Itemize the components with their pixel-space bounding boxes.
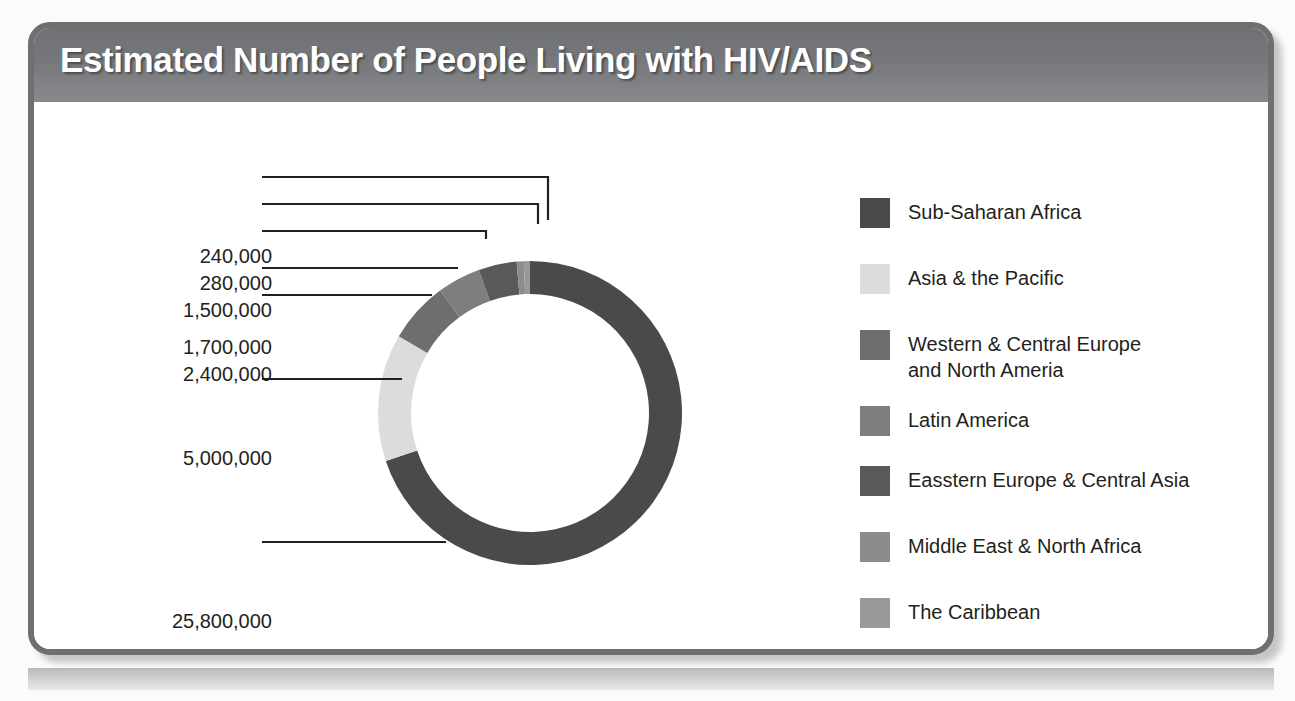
value-label: 25,800,000 (172, 610, 272, 633)
legend-label: Western & Central Europeand North Ameria (908, 330, 1141, 383)
legend-item[interactable]: Western & Central Europeand North Ameria (860, 330, 1141, 383)
legend-item[interactable]: Middle East & North Africa (860, 532, 1141, 562)
donut-segments (378, 261, 682, 565)
donut-segment (378, 336, 427, 461)
legend-label: Easstern Europe & Central Asia (908, 466, 1189, 493)
legend-swatch-icon (860, 330, 890, 360)
card-body: 240,000280,0001,500,0001,700,0002,400,00… (34, 102, 1268, 655)
legend-label: Sub-Saharan Africa (908, 198, 1081, 225)
leader-line (262, 231, 486, 239)
page-bottom-band (28, 668, 1274, 690)
value-label: 240,000 (200, 245, 272, 268)
legend-item[interactable]: Latin America (860, 406, 1029, 436)
leader-line (262, 204, 538, 224)
legend-swatch-icon (860, 598, 890, 628)
legend-swatch-icon (860, 198, 890, 228)
page-title: Estimated Number of People Living with H… (60, 40, 872, 80)
legend-label: Middle East & North Africa (908, 532, 1141, 559)
legend-item[interactable]: Easstern Europe & Central Asia (860, 466, 1189, 496)
card-header: Estimated Number of People Living with H… (34, 28, 1268, 102)
leader-line (262, 177, 548, 220)
chart-card: Estimated Number of People Living with H… (28, 22, 1274, 655)
legend-label: The Caribbean (908, 598, 1040, 625)
value-label: 5,000,000 (183, 447, 272, 470)
value-label: 280,000 (200, 272, 272, 295)
value-label: 1,700,000 (183, 336, 272, 359)
legend-label: Asia & the Pacific (908, 264, 1064, 291)
legend-swatch-icon (860, 532, 890, 562)
legend-label: Latin America (908, 406, 1029, 433)
legend-item[interactable]: Asia & the Pacific (860, 264, 1064, 294)
legend-swatch-icon (860, 406, 890, 436)
legend-item[interactable]: The Caribbean (860, 598, 1040, 628)
legend-item[interactable]: Sub-Saharan Africa (860, 198, 1081, 228)
legend-swatch-icon (860, 264, 890, 294)
value-label: 2,400,000 (183, 363, 272, 386)
page-canvas: Estimated Number of People Living with H… (0, 0, 1295, 701)
legend-swatch-icon (860, 466, 890, 496)
value-label: 1,500,000 (183, 299, 272, 322)
